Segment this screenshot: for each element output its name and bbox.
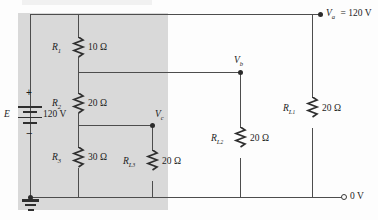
node-c-label: Vc: [155, 110, 164, 121]
wire-node-c-run: [78, 125, 152, 126]
ground-bar-3: [28, 209, 34, 211]
resistor-rl3-name: RL3: [123, 157, 135, 168]
wire-top-rail: [30, 14, 320, 15]
resistor-r1-value: 10 Ω: [88, 43, 107, 53]
resistor-rl1-name: RL1: [283, 104, 295, 115]
resistor-rl3: [145, 150, 160, 171]
resistor-rl2-value: 20 Ω: [250, 134, 269, 144]
ground-node-dot: [28, 195, 33, 200]
earth-ground-symbol: [22, 199, 39, 213]
battery-plate-short-1: [23, 111, 37, 113]
resistor-r2: [71, 93, 86, 114]
source-value-label: 120 V: [43, 110, 66, 120]
resistor-r2-name: R2: [52, 99, 61, 110]
battery-plate-long-2: [18, 117, 42, 119]
wire-divider-rail-r1-r2: [78, 57, 79, 94]
wire-rl1-column-top: [312, 14, 313, 98]
battery-plate-long-1: [18, 106, 42, 108]
node-b-dot: [238, 70, 243, 75]
wire-divider-rail-r3-bottom: [78, 168, 79, 197]
resistor-rl2: [233, 127, 248, 148]
battery-plus-sign: +: [26, 88, 32, 98]
wire-divider-rail-top: [78, 14, 79, 38]
zero-volt-terminal-dot: [341, 194, 347, 200]
wire-node-b-run: [78, 72, 240, 73]
battery-minus-sign: −: [26, 128, 32, 139]
resistor-rl1-value: 20 Ω: [322, 104, 341, 114]
resistor-rl3-value: 20 Ω: [162, 157, 181, 167]
resistor-r3-name: R3: [52, 153, 61, 164]
wire-rl2-column-top: [240, 72, 241, 128]
resistor-r1: [71, 37, 86, 58]
wire-rl3-column-bottom: [152, 181, 153, 197]
resistor-rl2-name: RL2: [211, 134, 223, 145]
node-a-label: Va = 120 V: [326, 9, 372, 20]
wire-rl2-column-bottom: [240, 158, 241, 197]
wire-zero-volt-lead: [312, 197, 342, 198]
ground-bar-2: [25, 204, 36, 206]
resistor-rl1: [305, 97, 320, 118]
source-symbol-label: E: [4, 110, 10, 120]
wire-divider-rail-r2-r3: [78, 113, 79, 148]
node-c-dot: [150, 123, 155, 128]
top-crop-artifact: [22, 0, 152, 5]
resistor-r3: [71, 147, 86, 168]
zero-volt-terminal-label: 0 V: [350, 192, 364, 202]
resistor-r3-value: 30 Ω: [88, 153, 107, 163]
node-a-dot: [318, 12, 323, 17]
resistor-r1-name: R1: [52, 43, 61, 54]
circuit-diagram: + − E 120 V R1 10 Ω R2 20 Ω R3 30 Ω: [0, 0, 378, 220]
node-b-label: Vb: [234, 56, 243, 67]
battery-plate-short-2: [23, 122, 37, 124]
resistor-r2-value: 20 Ω: [88, 99, 107, 109]
wire-rl1-column-bottom: [312, 128, 313, 197]
voltage-source-battery: [18, 104, 42, 126]
wire-bottom-rail: [30, 197, 342, 198]
wire-rl3-column-top: [152, 125, 153, 151]
